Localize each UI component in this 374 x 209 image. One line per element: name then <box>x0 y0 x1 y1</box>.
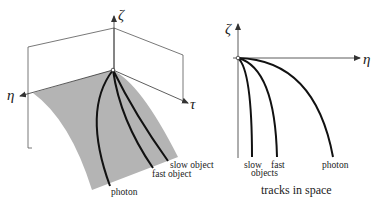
caption: tracks in space <box>261 183 332 197</box>
zeta-label: ζ <box>225 21 232 37</box>
origin-point <box>236 56 240 60</box>
eta-label: η <box>363 51 370 67</box>
diagram-canvas: ζ η τ slow object fast object photon ζ η… <box>0 0 374 209</box>
eta-label: η <box>7 87 14 103</box>
objects-label: objects <box>251 168 278 178</box>
spacetime-surface-figure: ζ η τ slow object fast object photon <box>7 7 214 197</box>
fast-object-label: fast object <box>152 169 192 179</box>
slow-objects-track <box>238 58 252 157</box>
photon-label: photon <box>322 160 349 170</box>
tau-label: τ <box>190 96 196 112</box>
photon-label: photon <box>111 187 138 197</box>
tracks-in-space-figure: ζ η slow fast objects photon tracks in s… <box>225 21 370 197</box>
zeta-label: ζ <box>118 7 125 23</box>
origin-point <box>111 68 115 72</box>
fast-objects-track <box>238 58 277 157</box>
